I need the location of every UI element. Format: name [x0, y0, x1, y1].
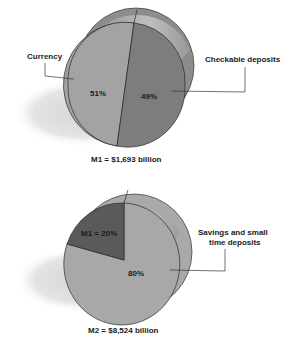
m1-currency-pct: 51%	[90, 89, 106, 98]
m1-checkable-pct: 49%	[141, 92, 157, 101]
m1-checkable-label: Checkable deposits	[205, 55, 281, 64]
money-supply-pie-charts: 51% 49% Currency Checkable deposits M1 =…	[0, 0, 299, 343]
m1-currency-label: Currency	[27, 52, 63, 61]
m1-pie-chart: 51% 49% Currency Checkable deposits M1 =…	[12, 8, 281, 164]
m2-savings-pct: 80%	[128, 269, 144, 278]
m2-m1-pct: M1 = 20%	[81, 229, 117, 238]
m2-caption: M2 = $8,524 billion	[88, 326, 159, 335]
m2-savings-label-line1: Savings and small	[198, 228, 268, 237]
m1-caption: M1 = $1,693 billion	[91, 155, 162, 164]
m2-pie-chart: M1 = 20% 80% Savings and small time depo…	[14, 190, 268, 335]
m2-savings-label-line2: time deposits	[209, 238, 261, 247]
